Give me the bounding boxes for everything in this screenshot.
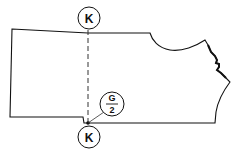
callout-numerator: G <box>108 93 115 103</box>
callout-denominator: 2 <box>109 105 114 115</box>
bottom-k-marker: K <box>78 126 100 148</box>
top-k-marker: K <box>78 7 100 29</box>
callout-leader-line <box>88 112 104 123</box>
armhole-edge-detail <box>208 45 226 78</box>
g-half-callout: G 2 <box>100 92 124 116</box>
pattern-diagram: K K G 2 <box>0 0 233 156</box>
top-k-label: K <box>85 12 94 26</box>
bottom-k-label: K <box>85 131 94 145</box>
